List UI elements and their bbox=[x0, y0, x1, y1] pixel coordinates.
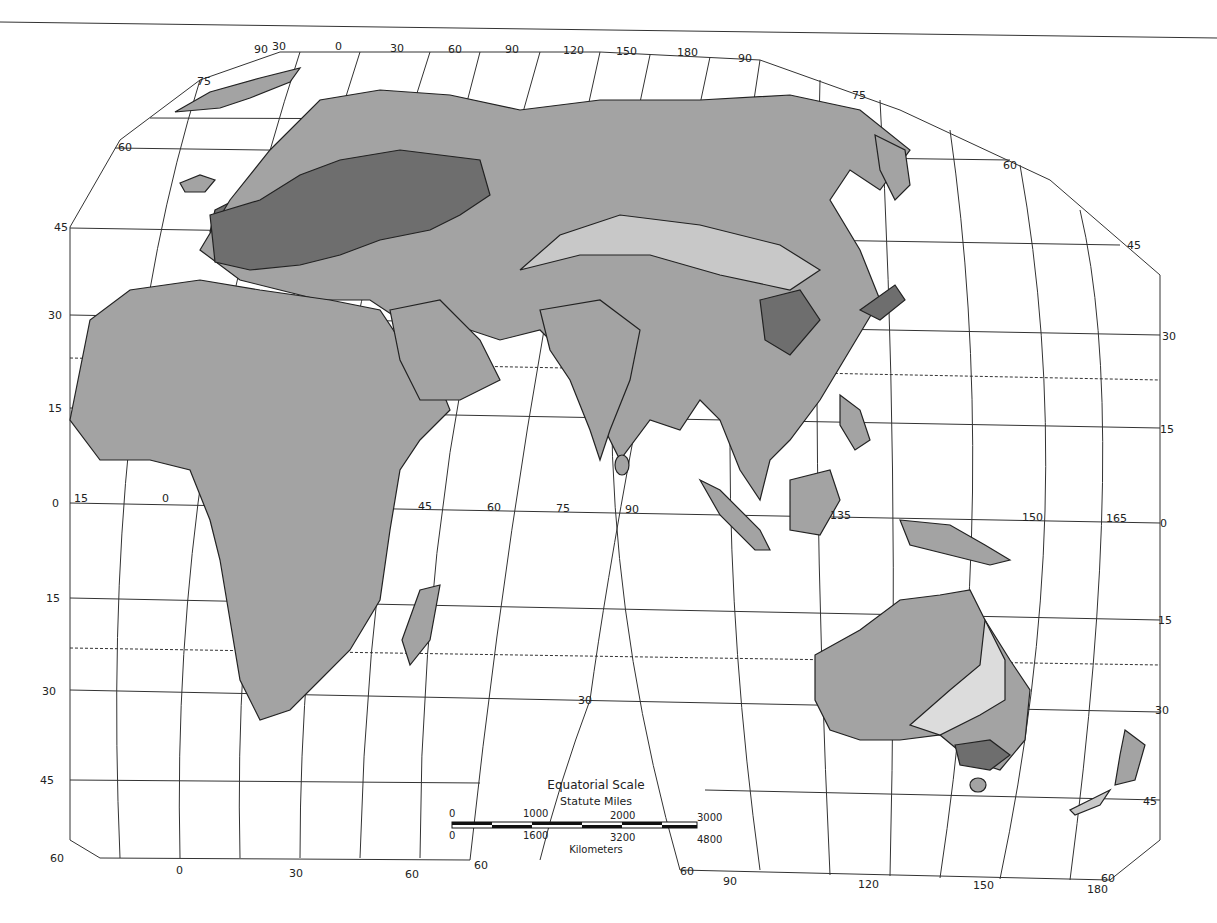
lat-label-15n-left: 15 bbox=[48, 403, 62, 414]
greenland bbox=[175, 68, 300, 112]
tasmania bbox=[970, 778, 986, 792]
top-label-90b: 90 bbox=[738, 53, 752, 64]
lat-label-0-right: 0 bbox=[1160, 518, 1167, 529]
scale-km-label: Kilometers bbox=[516, 844, 676, 855]
lat-label-45s-left: 45 bbox=[40, 775, 54, 786]
africa bbox=[70, 280, 450, 720]
top-label-180: 180 bbox=[677, 47, 698, 58]
bottom-label-180: 180 bbox=[1087, 884, 1108, 895]
borneo bbox=[790, 470, 840, 535]
landmasses bbox=[70, 68, 1145, 815]
lat-label-60n-left: 60 bbox=[118, 142, 132, 153]
eq-label-90e: 90 bbox=[625, 504, 639, 515]
scale-bar bbox=[452, 822, 697, 828]
scale-km-tick-3200: 3200 bbox=[610, 832, 635, 843]
lat-label-45n-left: 45 bbox=[54, 222, 68, 233]
eq-label-165e: 165 bbox=[1106, 513, 1127, 524]
top-label-90w: 90 bbox=[254, 44, 268, 55]
bottom-label-60-corner: 60 bbox=[474, 860, 488, 871]
lat-label-15s-right: 15 bbox=[1158, 615, 1172, 626]
lat-label-60s-left: 60 bbox=[50, 853, 64, 864]
top-label-60e: 60 bbox=[448, 44, 462, 55]
top-label-90e: 90 bbox=[505, 44, 519, 55]
eq-label-75e: 75 bbox=[556, 503, 570, 514]
sri-lanka bbox=[615, 455, 629, 475]
new-zealand bbox=[1115, 730, 1145, 785]
lat-label-45n-right: 45 bbox=[1127, 240, 1141, 251]
eq-label-15w: 15 bbox=[74, 493, 88, 504]
lat-label-30s-left: 30 bbox=[42, 686, 56, 697]
scale-mile-tick-2000: 2000 bbox=[610, 810, 635, 821]
top-label-30w: 30 bbox=[272, 41, 286, 52]
eq-label-135e: 135 bbox=[830, 510, 851, 521]
new-zealand-south bbox=[1070, 790, 1110, 815]
top-label-0: 0 bbox=[335, 41, 342, 52]
scale-title: Equatorial Scale bbox=[516, 778, 676, 792]
lat-label-15s-left: 15 bbox=[46, 593, 60, 604]
scale-km-tick-0: 0 bbox=[449, 830, 455, 841]
iceland bbox=[180, 175, 215, 192]
lat-label-45s-right: 45 bbox=[1143, 796, 1157, 807]
lat-label-75n-left: 75 bbox=[197, 76, 211, 87]
lat-label-30n-right: 30 bbox=[1162, 331, 1176, 342]
interior-label-30: 30 bbox=[578, 695, 592, 706]
scale-mile-tick-3000: 3000 bbox=[697, 812, 722, 823]
bottom-label-150: 150 bbox=[973, 880, 994, 891]
lat-label-30s-right: 30 bbox=[1155, 705, 1169, 716]
top-rule bbox=[0, 22, 1217, 38]
scale-mile-tick-1000: 1000 bbox=[523, 808, 548, 819]
eq-label-60e: 60 bbox=[487, 502, 501, 513]
bottom-label-0: 0 bbox=[176, 865, 183, 876]
top-label-150e: 150 bbox=[616, 46, 637, 57]
eq-label-45e: 45 bbox=[418, 501, 432, 512]
scale-mile-tick-0: 0 bbox=[449, 808, 455, 819]
lat-label-75n-right: 75 bbox=[852, 90, 866, 101]
bottom-label-30: 30 bbox=[289, 868, 303, 879]
lat-label-0-left: 0 bbox=[52, 498, 59, 509]
lat-label-15n-right: 15 bbox=[1160, 424, 1174, 435]
lat-label-60n-right: 60 bbox=[1003, 160, 1017, 171]
bottom-label-120: 120 bbox=[858, 879, 879, 890]
eq-label-0: 0 bbox=[162, 493, 169, 504]
lat-label-30n-left: 30 bbox=[48, 310, 62, 321]
scale-km-tick-1600: 1600 bbox=[523, 830, 548, 841]
scale-miles-label: Statute Miles bbox=[516, 795, 676, 808]
scale-km-tick-4800: 4800 bbox=[697, 834, 722, 845]
bottom-label-60: 60 bbox=[405, 869, 419, 880]
bottom-label-90: 90 bbox=[723, 876, 737, 887]
bottom-label-60-far-right: 60 bbox=[1101, 873, 1115, 884]
new-guinea bbox=[900, 520, 1010, 565]
top-label-120e: 120 bbox=[563, 45, 584, 56]
eq-label-150e: 150 bbox=[1022, 512, 1043, 523]
top-label-30e: 30 bbox=[390, 43, 404, 54]
bottom-label-60-right-corner: 60 bbox=[680, 866, 694, 877]
